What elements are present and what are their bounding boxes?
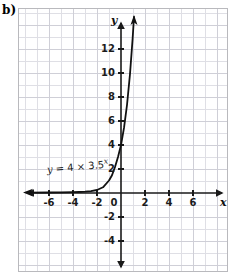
plot-frame: -6 -4 -2 0 2 4 6 12 10 8 6 4 2 -2 -4 y x… — [18, 8, 228, 272]
y-tick-label-12: 12 — [101, 44, 115, 54]
x-tick-label--2: -2 — [91, 198, 102, 208]
x-tick-label--4: -4 — [67, 198, 78, 208]
y-tick-label-2: 2 — [108, 164, 115, 174]
equation-exponent: x — [103, 156, 108, 165]
y-tick-label--2: -2 — [104, 212, 115, 222]
y-tick-label--4: -4 — [104, 236, 115, 246]
x-tick-label-0: 0 — [111, 198, 118, 208]
y-tick-label-8: 8 — [108, 92, 115, 102]
x-tick-label-6: 6 — [190, 198, 197, 208]
x-tick-label-4: 4 — [166, 198, 173, 208]
y-axis-label: y — [111, 15, 117, 26]
y-tick-label-6: 6 — [108, 116, 115, 126]
axes-and-curve — [19, 9, 228, 272]
y-tick-label-10: 10 — [101, 68, 115, 78]
y-tick-label-4: 4 — [108, 140, 115, 150]
part-label: b) — [2, 4, 16, 16]
exponential-function-graph-figure: b) — [0, 0, 239, 279]
x-axis-label: x — [220, 197, 227, 208]
x-tick-label--6: -6 — [43, 198, 54, 208]
x-tick-label-2: 2 — [142, 198, 149, 208]
